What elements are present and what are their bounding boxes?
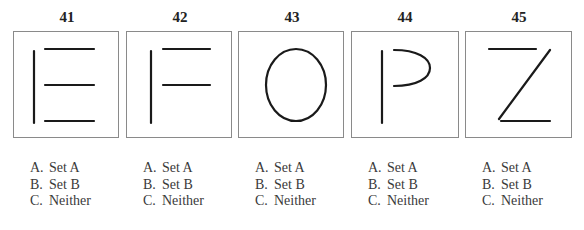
option-c[interactable]: C.Neither (482, 193, 543, 210)
answer-options: A.Set A B.Set B C.Neither (255, 160, 316, 210)
figure-box (351, 31, 459, 138)
option-b[interactable]: B.Set B (143, 177, 204, 194)
letter-f-figure-icon (127, 32, 231, 137)
letter-z-figure-icon (466, 32, 570, 137)
option-c[interactable]: C.Neither (30, 193, 91, 210)
option-c[interactable]: C.Neither (255, 193, 316, 210)
option-b[interactable]: B.Set B (482, 177, 543, 194)
question-number: 42 (126, 9, 234, 26)
figure-box (13, 31, 119, 138)
option-c[interactable]: C.Neither (368, 193, 429, 210)
question-number: 41 (13, 9, 121, 26)
question-number: 45 (465, 9, 573, 26)
option-a[interactable]: A.Set A (143, 160, 204, 177)
option-a[interactable]: A.Set A (30, 160, 91, 177)
figure-box (126, 31, 232, 138)
option-a[interactable]: A.Set A (482, 160, 543, 177)
option-b[interactable]: B.Set B (368, 177, 429, 194)
option-b[interactable]: B.Set B (30, 177, 91, 194)
question-number: 43 (238, 9, 346, 26)
option-c[interactable]: C.Neither (143, 193, 204, 210)
question-42: 42 A.Set A B.Set B C.Neither (126, 0, 234, 230)
question-number: 44 (351, 9, 459, 26)
question-41: 41 A.Set A B.Set B C.Neither (13, 0, 121, 230)
letter-p-figure-icon (352, 32, 456, 137)
answer-options: A.Set A B.Set B C.Neither (482, 160, 543, 210)
answer-options: A.Set A B.Set B C.Neither (30, 160, 91, 210)
question-43: 43 A.Set A B.Set B C.Neither (238, 0, 346, 230)
answer-options: A.Set A B.Set B C.Neither (368, 160, 429, 210)
question-44: 44 A.Set A B.Set B C.Neither (351, 0, 459, 230)
option-a[interactable]: A.Set A (255, 160, 316, 177)
letter-o-figure-icon (239, 32, 343, 137)
option-b[interactable]: B.Set B (255, 177, 316, 194)
letter-e-figure-icon (14, 32, 118, 137)
figure-box (238, 31, 344, 138)
option-a[interactable]: A.Set A (368, 160, 429, 177)
answer-options: A.Set A B.Set B C.Neither (143, 160, 204, 210)
question-45: 45 A.Set A B.Set B C.Neither (465, 0, 573, 230)
figure-box (465, 31, 572, 138)
